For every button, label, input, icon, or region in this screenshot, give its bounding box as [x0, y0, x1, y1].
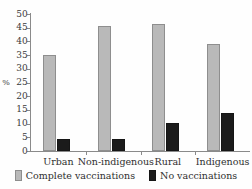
legend-swatch-complete-vaccinations — [15, 170, 22, 181]
y-axis-tick-label: 30 — [6, 64, 28, 73]
bar-complete-vaccinations — [152, 24, 165, 151]
x-axis-tick — [141, 151, 142, 155]
bar-no-vaccinations — [57, 139, 70, 151]
legend-item-complete-vaccinations: Complete vaccinations — [15, 170, 135, 181]
y-axis-tick-label: 15 — [6, 105, 28, 114]
y-axis-tick-label: 40 — [6, 37, 28, 46]
bar-chart: % 05101520253035404550 UrbanNon-indigeno… — [0, 0, 252, 189]
y-axis-tick-label: 35 — [6, 51, 28, 60]
bar-complete-vaccinations — [207, 44, 220, 151]
bar-no-vaccinations — [112, 139, 125, 151]
y-axis-tick-label: 0 — [6, 147, 28, 156]
bar-no-vaccinations — [221, 113, 234, 151]
y-axis-tick-label: 5 — [6, 133, 28, 142]
x-axis-tick — [195, 151, 196, 155]
x-axis-label-indigenous: Indigenous — [187, 156, 252, 167]
x-axis-tick — [86, 151, 87, 155]
y-axis-tick-label: 45 — [6, 23, 28, 32]
chart-legend: Complete vaccinations No vaccinations — [0, 170, 252, 181]
bar-no-vaccinations — [166, 123, 179, 151]
legend-label-no-vaccinations: No vaccinations — [160, 170, 237, 181]
y-axis-tick-label: 25 — [6, 78, 28, 87]
y-axis-tick-label: 50 — [6, 10, 28, 19]
legend-swatch-no-vaccinations — [149, 170, 156, 181]
y-axis-tick-label: 10 — [6, 119, 28, 128]
bar-complete-vaccinations — [98, 26, 111, 151]
legend-item-no-vaccinations: No vaccinations — [149, 170, 237, 181]
legend-label-complete-vaccinations: Complete vaccinations — [26, 170, 135, 181]
bar-complete-vaccinations — [43, 55, 56, 151]
y-axis-tick-label: 20 — [6, 92, 28, 101]
